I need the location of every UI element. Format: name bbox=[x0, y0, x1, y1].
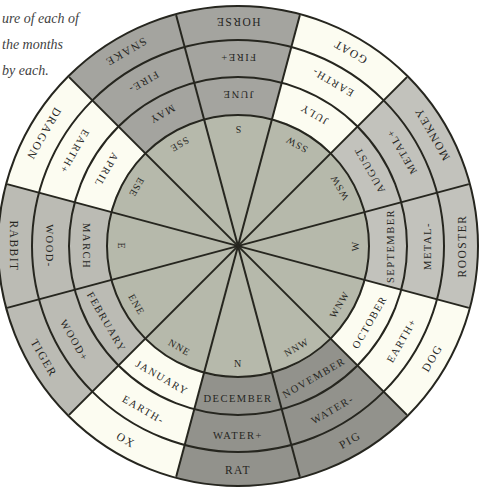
month-label-march: MARCH bbox=[81, 223, 92, 269]
animal-label-goat: GOAT bbox=[331, 38, 369, 67]
direction-label-e: E bbox=[116, 242, 127, 249]
ring-boundary-arc-month-direction bbox=[106, 114, 370, 378]
element-label-metal: METAL- bbox=[422, 222, 433, 270]
animal-label-pig: PIG bbox=[337, 429, 363, 451]
caption-line-3: by each. bbox=[2, 58, 79, 84]
element-label-water: WATER+ bbox=[213, 430, 263, 441]
element-label-wood: WOOD- bbox=[44, 224, 55, 268]
caption-line-1: ure of each of bbox=[2, 6, 79, 32]
month-label-september: SEPTEMBER bbox=[385, 209, 396, 283]
direction-label-w: W bbox=[350, 241, 361, 251]
element-label-fire: FIRE+ bbox=[220, 52, 256, 63]
animal-label-dog: DOG bbox=[419, 342, 444, 373]
animal-label-rabbit: RABBIT bbox=[8, 220, 20, 271]
direction-label-s: S bbox=[235, 124, 242, 135]
month-label-december: DECEMBER bbox=[203, 393, 272, 404]
figure-caption: ure of each of the months by each. bbox=[2, 6, 79, 84]
caption-line-2: the months bbox=[2, 32, 79, 58]
animal-label-ox: OX bbox=[115, 430, 138, 450]
animal-label-rat: RAT bbox=[225, 464, 251, 476]
month-label-june: JUNE bbox=[222, 89, 254, 100]
animal-label-rooster: ROOSTER bbox=[456, 215, 468, 278]
animal-label-horse: HORSE bbox=[215, 16, 260, 28]
direction-label-n: N bbox=[234, 358, 242, 369]
